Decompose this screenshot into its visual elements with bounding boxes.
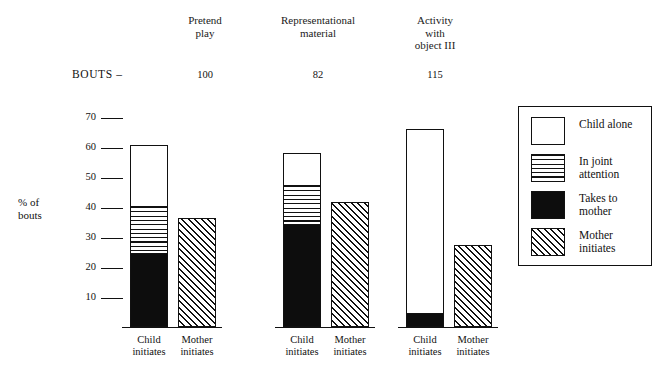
bar-group-3-mother[interactable]: [454, 245, 492, 327]
y-tick-label-10: 10: [74, 291, 96, 302]
y-tick-mark-60: [101, 148, 123, 149]
legend-swatch-takes-to-mother-icon: [531, 191, 565, 219]
legend: Child alone In joint attention Takes to …: [518, 106, 652, 266]
segment-takes-to-mother: [407, 313, 443, 326]
segment-in-joint-attention: [284, 185, 320, 224]
segment-child-alone: [284, 154, 320, 185]
y-tick-mark-40: [101, 208, 123, 209]
baseline-group-1: [122, 327, 222, 328]
legend-item-in-joint-attention[interactable]: In joint attention: [531, 154, 619, 182]
group-title-activity-object-iii: Activity with object III: [380, 14, 490, 52]
legend-item-child-alone[interactable]: Child alone: [531, 117, 632, 145]
legend-label-in-joint-attention: In joint attention: [579, 154, 619, 181]
y-tick-label-20: 20: [74, 261, 96, 272]
bouts-value-pretend-play: 100: [150, 69, 260, 80]
legend-swatch-mother-initiates-icon: [531, 228, 565, 256]
y-tick-mark-20: [101, 268, 123, 269]
y-axis-label: % of bouts: [18, 196, 78, 221]
y-tick-mark-70: [101, 118, 123, 119]
x-label-group-3-mother: Mother initiates: [439, 334, 507, 358]
y-tick-mark-10: [101, 298, 123, 299]
segment-takes-to-mother: [284, 224, 320, 326]
group-title-representational-material: Representational material: [248, 14, 388, 39]
legend-swatch-child-alone-icon: [531, 117, 565, 145]
y-tick-label-40: 40: [74, 201, 96, 212]
bouts-value-representational-material: 82: [248, 69, 388, 80]
bar-group-1-child[interactable]: [130, 145, 168, 327]
segment-child-alone: [131, 146, 167, 206]
bar-group-2-mother[interactable]: [331, 202, 369, 327]
y-tick-label-70: 70: [74, 111, 96, 122]
x-label-group-2-mother: Mother initiates: [316, 334, 384, 358]
y-tick-mark-30: [101, 238, 123, 239]
legend-swatch-in-joint-attention-icon: [531, 154, 565, 182]
legend-label-mother-initiates: Mother initiates: [579, 228, 615, 255]
bouts-row-label: BOUTS –: [72, 68, 123, 80]
y-tick-label-60: 60: [74, 141, 96, 152]
legend-label-takes-to-mother: Takes to mother: [579, 191, 617, 218]
group-title-pretend-play: Pretend play: [150, 14, 260, 39]
bouts-value-activity-object-iii: 115: [380, 69, 490, 80]
chart-canvas: Pretend play Representational material A…: [0, 0, 663, 379]
legend-item-takes-to-mother[interactable]: Takes to mother: [531, 191, 617, 219]
baseline-group-2: [275, 327, 375, 328]
bar-group-3-child[interactable]: [406, 129, 444, 327]
y-tick-label-30: 30: [74, 231, 96, 242]
legend-item-mother-initiates[interactable]: Mother initiates: [531, 228, 615, 256]
baseline-group-3: [398, 327, 498, 328]
y-tick-label-50: 50: [74, 171, 96, 182]
segment-child-alone: [407, 130, 443, 313]
x-label-group-1-mother: Mother initiates: [163, 334, 231, 358]
segment-in-joint-attention: [131, 206, 167, 253]
bar-group-1-mother[interactable]: [178, 218, 216, 327]
segment-takes-to-mother: [131, 253, 167, 326]
legend-label-child-alone: Child alone: [579, 117, 632, 131]
y-tick-mark-50: [101, 178, 123, 179]
bar-group-2-child[interactable]: [283, 153, 321, 327]
